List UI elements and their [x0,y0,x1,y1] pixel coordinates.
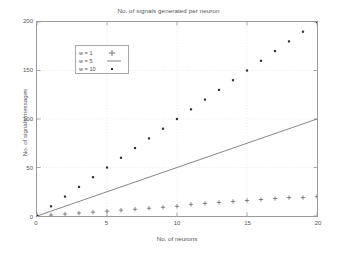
x-axis-title: No. of neurons [36,235,318,242]
x-tick-label: 20 [303,220,333,226]
figure-canvas: No. of signals generated per neuron w = … [0,0,337,254]
x-tick-label: 10 [162,220,192,226]
y-axis-title: No. of signals/messages [21,53,28,193]
x-tick-label: 5 [92,220,122,226]
x-tick-label: 0 [21,220,51,226]
x-tick-label: 15 [233,220,263,226]
x-axis-tick-labels: 05101520 [0,0,337,254]
